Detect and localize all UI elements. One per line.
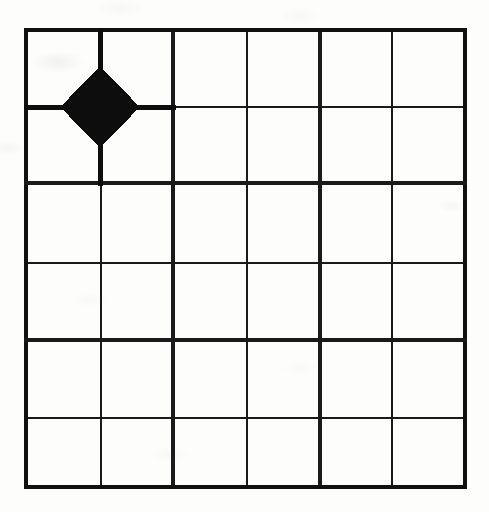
marker-diamond-1: [61, 67, 139, 147]
grid-diagram-svg: [0, 0, 489, 512]
figure-canvas: [0, 0, 489, 512]
marker-shapes: [61, 67, 139, 147]
